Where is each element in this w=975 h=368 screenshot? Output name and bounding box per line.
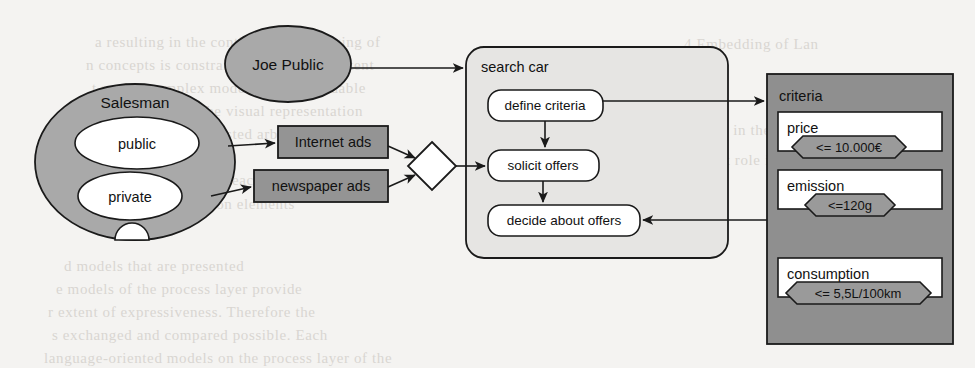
salesman-label: Salesman xyxy=(101,94,170,111)
data-object-criteria[interactable]: criteria price <= 10.000€ emission <=120… xyxy=(767,74,953,344)
activity-decide-about-offers[interactable]: decide about offers xyxy=(488,205,640,236)
business-process-diagram: Salesman public private Joe Public Inter… xyxy=(0,0,975,368)
process-search-car[interactable]: search car define criteria solicit offer… xyxy=(466,47,728,258)
emission-label: emission xyxy=(787,178,844,194)
consumption-label: consumption xyxy=(787,266,869,282)
channel-internet-ads[interactable]: Internet ads xyxy=(278,126,388,158)
merge-gateway[interactable] xyxy=(408,142,456,190)
price-label: price xyxy=(787,120,818,136)
criteria-item-price[interactable]: price <= 10.000€ xyxy=(778,112,942,158)
decide-about-offers-label: decide about offers xyxy=(507,213,622,228)
search-car-label: search car xyxy=(481,59,549,75)
solicit-offers-label: solicit offers xyxy=(507,158,578,173)
criteria-label: criteria xyxy=(779,88,823,104)
flow-public-to-internet-ads xyxy=(228,143,275,146)
newspaper-ads-label: newspaper ads xyxy=(272,178,370,194)
channel-newspaper-ads[interactable]: newspaper ads xyxy=(254,170,388,202)
emission-constraint-label: <=120g xyxy=(828,198,872,213)
criteria-item-consumption[interactable]: consumption <= 5,5L/100km xyxy=(778,258,942,304)
joe-public-label: Joe Public xyxy=(252,56,324,73)
role-private[interactable]: private xyxy=(78,172,182,220)
price-constraint-label: <= 10.000€ xyxy=(816,140,883,155)
internet-ads-label: Internet ads xyxy=(295,134,372,150)
criteria-item-emission[interactable]: emission <=120g xyxy=(778,170,942,216)
actor-salesman[interactable]: Salesman public private xyxy=(35,84,235,240)
public-label: public xyxy=(118,136,156,152)
activity-solicit-offers[interactable]: solicit offers xyxy=(488,150,599,181)
consumption-constraint-label: <= 5,5L/100km xyxy=(815,286,902,301)
role-public[interactable]: public xyxy=(75,117,199,169)
diagram-page: a resulting in the continuous rearrangin… xyxy=(0,0,975,368)
actor-joe-public[interactable]: Joe Public xyxy=(225,26,351,102)
private-label: private xyxy=(108,189,152,205)
activity-define-criteria[interactable]: define criteria xyxy=(488,90,603,121)
gateway-diamond xyxy=(408,142,456,190)
flow-newspaper-ads-to-gateway xyxy=(388,175,415,187)
define-criteria-label: define criteria xyxy=(504,98,586,113)
flow-internet-ads-to-gateway xyxy=(388,146,415,158)
